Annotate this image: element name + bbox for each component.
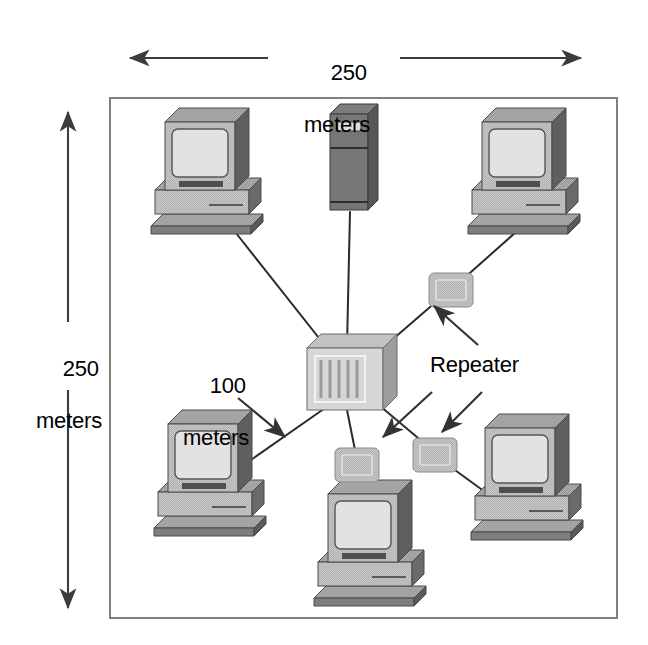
link-hub-repeater-lower [380, 406, 424, 443]
top-dimension-value: 250 [331, 60, 367, 85]
repeater-arrow-center [442, 392, 482, 432]
hub-center [307, 334, 397, 410]
left-dimension-value: 250 [63, 356, 99, 381]
top-dimension-label: 250 meters [282, 34, 392, 190]
workstation-top-left [151, 108, 263, 234]
link-hub-server-top [347, 212, 350, 346]
workstation-top-right [468, 108, 580, 234]
repeater-center [335, 448, 379, 482]
network-diagram: 250 meters 250 meters 100 meters Repeate… [0, 0, 648, 645]
top-dimension-unit: meters [282, 112, 392, 138]
link-hub-workstation-tl [232, 228, 330, 352]
segment-length-value: 100 [210, 373, 246, 398]
repeater-lower [413, 438, 457, 472]
repeater-arrow-upper [434, 306, 478, 345]
link-hub-repeater-center [347, 410, 355, 450]
workstation-bottom-center [314, 480, 426, 606]
workstation-bottom-right [471, 414, 583, 540]
left-dimension-label: 250 meters [13, 330, 125, 486]
repeater-upper [429, 273, 473, 307]
segment-length-unit: meters [160, 425, 272, 451]
left-dimension-unit: meters [13, 408, 125, 434]
segment-length-label: 100 meters [160, 347, 272, 503]
repeater-callout-label: Repeater [430, 352, 554, 378]
link-repeater-upper-workstation-tr [462, 232, 516, 280]
